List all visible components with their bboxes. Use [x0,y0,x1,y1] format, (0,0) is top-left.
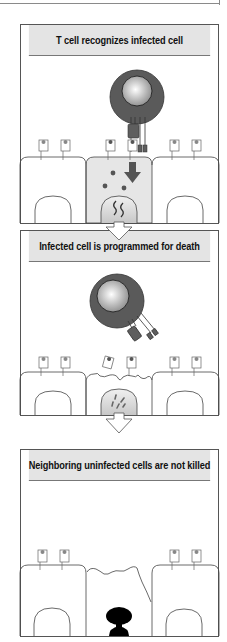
nucleus-left [35,391,71,415]
nucleus-fragmenting [101,389,137,415]
nucleus-right [167,391,203,415]
t-cell [110,70,164,124]
nucleus-right [166,609,202,636]
panel3-scene [20,550,219,636]
panel1-scene [20,70,219,223]
nucleus-infected [101,196,137,223]
condensed-nucleus [106,607,132,636]
t-cell-detached [90,274,144,328]
mhc-peptide-complexes [39,356,201,376]
transition-arrow-2 [106,413,132,433]
transition-arrow-1 [106,222,132,240]
nucleus-right [167,196,203,223]
panel2-scene [20,274,219,415]
apoptotic-cell-remnant [87,567,151,602]
nucleus-left [35,196,71,223]
diagram-illustration [0,0,227,642]
mhc-complexes [38,550,201,570]
nucleus-left [34,608,70,636]
